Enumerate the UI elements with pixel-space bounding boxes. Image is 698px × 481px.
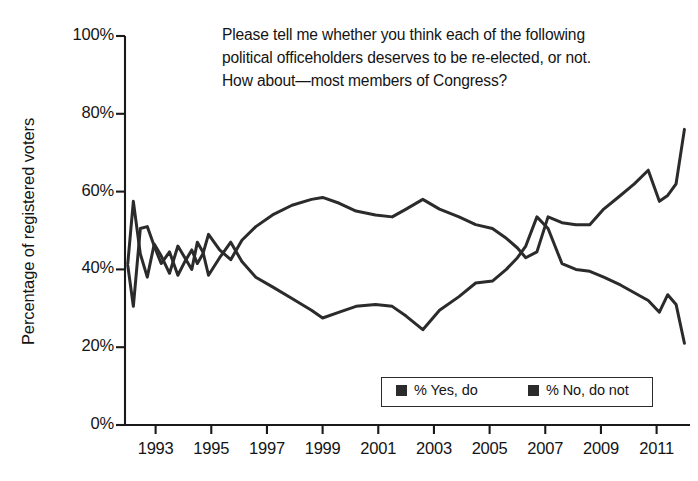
x-tick-label: 2001 xyxy=(348,439,408,458)
x-tick-label: 1997 xyxy=(237,439,297,458)
legend-label-yes-do: % Yes, do xyxy=(414,382,478,398)
legend-item-yes-do: % Yes, do xyxy=(396,382,478,398)
chart-figure: Percentage of registered voters Please t… xyxy=(0,0,698,481)
data-series-layer xyxy=(128,129,685,343)
series-line-yes-do xyxy=(128,201,685,343)
chart-title-line-1: Please tell me whether you think each of… xyxy=(222,24,674,47)
x-tick-label: 1999 xyxy=(293,439,353,458)
chart-title: Please tell me whether you think each of… xyxy=(222,24,674,93)
x-tick-label: 2003 xyxy=(404,439,464,458)
y-tick-label: 60% xyxy=(52,181,114,200)
x-tick-label: 2005 xyxy=(460,439,520,458)
y-tick-label: 0% xyxy=(52,414,114,433)
x-tick-label: 1993 xyxy=(126,439,186,458)
legend-swatch-no-do-not xyxy=(528,385,539,396)
chart-legend: % Yes, do % No, do not xyxy=(381,377,653,407)
y-tick-label: 20% xyxy=(52,336,114,355)
chart-title-line-3: How about—most members of Congress? xyxy=(222,70,674,93)
axis-lines xyxy=(116,36,690,434)
y-tick-label: 40% xyxy=(52,258,114,277)
x-tick-label: 1995 xyxy=(181,439,241,458)
legend-label-no-do-not: % No, do not xyxy=(546,382,629,398)
x-tick-label: 2007 xyxy=(515,439,575,458)
y-tick-label: 80% xyxy=(52,103,114,122)
legend-swatch-yes-do xyxy=(396,385,407,396)
chart-title-line-2: political officeholders deserves to be r… xyxy=(222,47,674,70)
y-axis-title: Percentage of registered voters xyxy=(19,52,38,412)
legend-item-no-do-not: % No, do not xyxy=(528,382,629,398)
x-tick-label: 2009 xyxy=(571,439,631,458)
series-line-no-do-not xyxy=(128,129,685,306)
y-tick-label: 100% xyxy=(52,25,114,44)
x-tick-label: 2011 xyxy=(627,439,687,458)
